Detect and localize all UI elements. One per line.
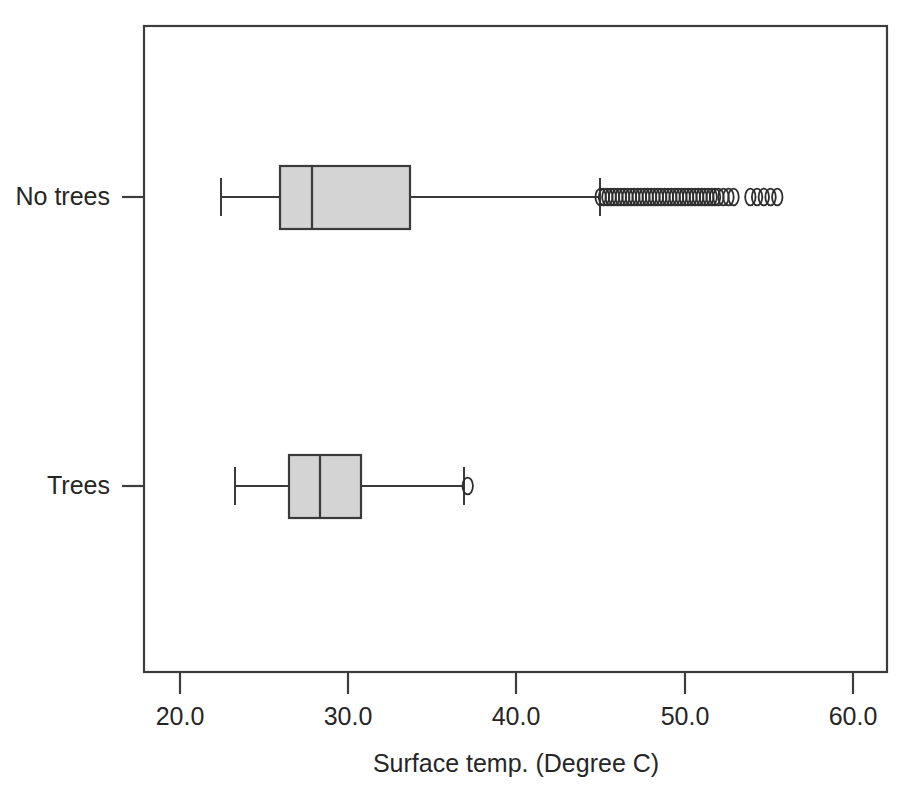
y-label-no-trees: No trees bbox=[16, 182, 110, 210]
figure-background bbox=[0, 0, 906, 794]
x-tick-label-30: 30.0 bbox=[324, 702, 373, 730]
x-axis-title: Surface temp. (Degree C) bbox=[373, 749, 659, 777]
x-tick-label-60: 60.0 bbox=[829, 702, 878, 730]
box-body-no-trees bbox=[280, 166, 410, 229]
boxplot-svg: 20.0 30.0 40.0 50.0 60.0 Surface temp. (… bbox=[0, 0, 906, 794]
x-tick-label-20: 20.0 bbox=[156, 702, 205, 730]
boxplot-figure: 20.0 30.0 40.0 50.0 60.0 Surface temp. (… bbox=[0, 0, 906, 794]
x-tick-label-40: 40.0 bbox=[492, 702, 541, 730]
x-tick-label-50: 50.0 bbox=[661, 702, 710, 730]
box-body-trees bbox=[289, 455, 361, 518]
y-label-trees: Trees bbox=[47, 471, 110, 499]
